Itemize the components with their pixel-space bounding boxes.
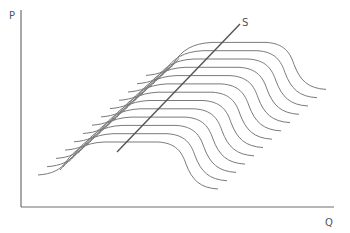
curve	[83, 101, 263, 148]
curve	[74, 109, 254, 156]
curve	[65, 117, 245, 164]
curve	[128, 59, 308, 106]
curve	[92, 92, 272, 139]
curve	[101, 84, 281, 131]
curve	[47, 134, 227, 181]
curve	[146, 42, 326, 89]
s-line	[117, 24, 240, 152]
x-axis-label: Q	[325, 217, 333, 228]
curve	[137, 51, 317, 98]
curve	[38, 142, 218, 189]
curve	[119, 67, 299, 114]
diagram-canvas: P Q S	[0, 0, 350, 233]
y-axis-label: P	[9, 10, 15, 21]
curve	[56, 125, 236, 172]
curve	[110, 76, 290, 123]
curve-family	[38, 42, 326, 189]
s-line-label: S	[242, 17, 248, 28]
